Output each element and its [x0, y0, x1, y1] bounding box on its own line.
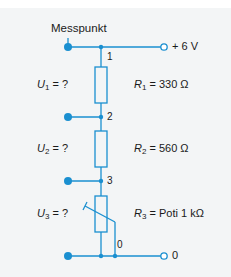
r1-label: R1 = 330 Ω	[134, 79, 189, 92]
node-2-label: 2	[107, 112, 113, 122]
node-3-label: 3	[107, 176, 113, 186]
supply-terminal-icon	[161, 44, 167, 50]
node-2-probe-dot	[64, 113, 72, 121]
u1-label: U1 = ?	[37, 79, 68, 92]
messpunkt-label: Messpunkt	[51, 23, 107, 35]
u3-label: U3 = ?	[37, 208, 68, 221]
node-0-dot-b	[113, 254, 117, 258]
node-3-probe-dot	[64, 177, 72, 185]
u2-label: U2 = ?	[37, 143, 68, 156]
node-0-label: 0	[117, 240, 123, 250]
resistor-r1-icon	[95, 67, 107, 103]
wiper-line	[85, 206, 115, 222]
ground-label: 0	[172, 250, 178, 261]
wiper-tick	[83, 202, 87, 210]
node-0-dot-a	[99, 254, 103, 258]
r2-label: R2 = 560 Ω	[134, 143, 189, 156]
node-1-dot	[99, 45, 103, 49]
messpunkt-dot	[64, 43, 72, 51]
ground-terminal-icon	[161, 253, 167, 259]
resistor-r2-icon	[95, 131, 107, 167]
node-2-dot	[99, 115, 103, 119]
node-1-label: 1	[107, 52, 113, 62]
node-0-probe-dot	[64, 252, 72, 260]
supply-voltage-label: + 6 V	[172, 41, 198, 52]
r3-label: R3 = Poti 1 kΩ	[134, 208, 204, 221]
node-3-dot	[99, 179, 103, 183]
